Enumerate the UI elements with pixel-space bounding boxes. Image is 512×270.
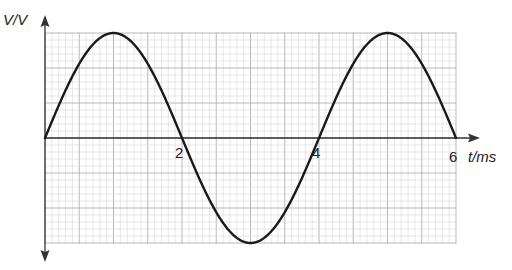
x-tick-6: 6 [449,148,457,165]
x-tick-2: 2 [175,144,183,161]
y-axis-label: V/V [3,11,29,28]
sine-wave-chart: V/V t/ms 2 4 6 [0,0,512,270]
x-axis-label: t/ms [468,148,497,165]
x-tick-4: 4 [312,144,320,161]
